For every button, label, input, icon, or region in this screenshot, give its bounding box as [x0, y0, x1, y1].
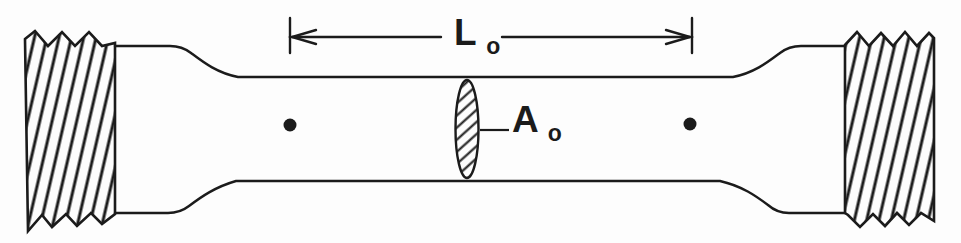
area-label-subscript: o	[548, 120, 562, 146]
specimen-bottom-profile	[115, 181, 845, 213]
gauge-length-label-main: L	[454, 12, 476, 53]
tensile-specimen-figure: L o A o	[0, 0, 961, 243]
right-threaded-grip	[845, 32, 934, 227]
right-thread-hatching-icon	[845, 32, 934, 227]
gauge-mark-dot-right	[684, 118, 697, 131]
left-thread-hatching-icon	[25, 31, 115, 231]
area-label-main: A	[512, 99, 538, 140]
left-threaded-grip	[25, 31, 115, 231]
tensile-specimen-diagram: L o A o	[0, 0, 961, 243]
gauge-length-label: L o	[454, 12, 500, 59]
gauge-mark-dot-left	[284, 119, 297, 132]
area-label: A o	[512, 99, 562, 146]
cross-section-marker	[456, 80, 510, 178]
cross-section-ellipse-hatching-icon	[456, 80, 479, 178]
gauge-length-label-subscript: o	[486, 33, 500, 59]
